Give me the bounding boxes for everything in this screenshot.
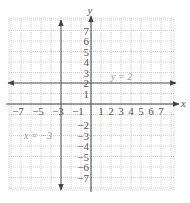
x-tick-label: 7 xyxy=(158,105,164,117)
axes xyxy=(6,16,179,192)
coordinate-graph: −7−5−3−112345677654321−2−3−4−5−6−7 x y y… xyxy=(0,0,190,203)
x-tick-label: −5 xyxy=(32,105,44,117)
x-tick-label: 1 xyxy=(98,105,104,117)
equation-label-y-equals-2: y = 2 xyxy=(110,71,132,82)
x-tick-label: 3 xyxy=(118,105,124,117)
y-axis-label: y xyxy=(87,4,93,16)
x-axis-label: x xyxy=(180,97,186,109)
y-tick-label: 1 xyxy=(84,88,90,100)
x-tick-label: 4 xyxy=(128,105,134,117)
x-tick-label: −1 xyxy=(72,105,84,117)
x-tick-label: 6 xyxy=(148,105,154,117)
x-tick-label: 5 xyxy=(138,105,144,117)
x-tick-label: 2 xyxy=(108,105,114,117)
x-tick-label: −7 xyxy=(12,105,24,117)
equation-label-x-equals-neg3: x = −3 xyxy=(23,130,52,141)
x-tick-label: −3 xyxy=(52,105,64,117)
y-tick-label: −7 xyxy=(77,172,89,184)
